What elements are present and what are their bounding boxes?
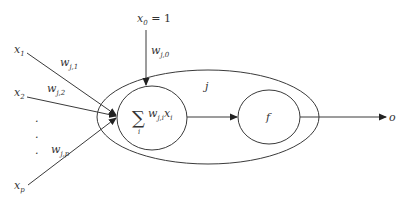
weight-label-2: wj,2 xyxy=(47,82,66,97)
input-label-1: x1 xyxy=(14,43,25,58)
output-label: o xyxy=(389,111,396,124)
input-edge-p xyxy=(28,118,116,185)
summation-term: wj,ixi xyxy=(148,107,173,122)
weight-label-1: wj,1 xyxy=(60,56,78,71)
neuron-label: j xyxy=(202,80,209,93)
neuron-diagram: x0 = 1 wj,0 x1 wj,1 x2 wj,2 xp wj,p . . … xyxy=(0,0,401,202)
ellipsis-dot-1: . xyxy=(35,112,39,125)
input-label-2: x2 xyxy=(14,86,25,101)
weight-label-p: wj,p xyxy=(51,143,70,158)
ellipsis-dot-3: . xyxy=(35,144,39,157)
bias-input-label: x0 = 1 xyxy=(137,12,171,27)
input-label-p: xp xyxy=(14,179,25,194)
summation-symbol: ∑ xyxy=(132,107,145,128)
ellipsis-dot-2: . xyxy=(35,128,39,141)
input-edge-2 xyxy=(27,97,116,116)
summation-index: i xyxy=(138,128,140,136)
activation-label: f xyxy=(265,111,272,124)
bias-weight-label: wj,0 xyxy=(151,44,170,59)
